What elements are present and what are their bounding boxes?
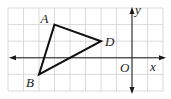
y-axis-label: y bbox=[133, 2, 141, 17]
point-label-A: A bbox=[40, 11, 49, 26]
x-axis-right-arrow-icon bbox=[159, 55, 166, 60]
y-axis-down-arrow-icon bbox=[130, 87, 135, 94]
point-label-D: D bbox=[104, 34, 115, 49]
coordinate-plane: ADBOxy bbox=[0, 0, 171, 99]
origin-label: O bbox=[120, 60, 130, 75]
coordinate-plane-figure: ADBOxy bbox=[0, 0, 171, 99]
x-axis-left-arrow-icon bbox=[9, 55, 16, 60]
x-axis-label: x bbox=[149, 59, 156, 74]
point-label-B: B bbox=[26, 75, 34, 90]
